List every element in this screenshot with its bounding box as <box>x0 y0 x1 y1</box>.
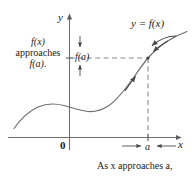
bottom-caption: As x approaches a, <box>97 160 173 171</box>
curve-equation-label: y = f(x) <box>131 17 164 29</box>
x-axis-label: x <box>178 138 183 150</box>
bottom-caption-text: As x approaches a, <box>97 160 173 171</box>
left-annotation-line-1: f(x) <box>6 36 70 47</box>
x-tick-label-a: a <box>145 141 150 152</box>
curve-approach-arrow-left <box>125 77 136 92</box>
left-annotation-line-3: f(a). <box>6 58 70 69</box>
left-annotation-block: f(x) approaches f(a). <box>6 36 70 70</box>
origin-label: 0 <box>60 139 66 151</box>
y-axis-label: y <box>58 11 63 23</box>
limit-continuity-figure: y = f(x) y x 0 f(a) a f(x) approaches f(… <box>0 0 192 181</box>
point-a-fa <box>147 57 150 60</box>
left-annotation-line-2: approaches <box>6 47 70 58</box>
y-tick-label-fa: f(a) <box>75 51 89 62</box>
